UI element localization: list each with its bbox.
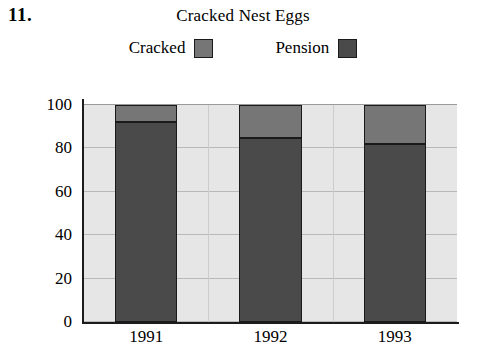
bar-group-1993[interactable] xyxy=(364,105,426,322)
gridline-vertical xyxy=(333,105,334,322)
legend-swatch-cracked-icon xyxy=(194,39,213,58)
legend-entry-pension: Pension xyxy=(275,38,357,58)
x-tick-label-1992: 1992 xyxy=(254,327,288,347)
legend-entry-cracked: Cracked xyxy=(129,38,214,58)
bar-segment-pension-1992[interactable] xyxy=(239,138,301,322)
bar-segment-cracked-1992[interactable] xyxy=(239,105,301,138)
chart-title: Cracked Nest Eggs xyxy=(0,6,486,26)
y-axis-ticks: 020406080100 xyxy=(0,105,78,322)
chart-legend: Cracked Pension xyxy=(0,38,486,58)
bar-group-1991[interactable] xyxy=(115,105,177,322)
y-tick-label-60: 60 xyxy=(55,182,72,202)
y-tick-label-0: 0 xyxy=(64,312,73,332)
legend-label-cracked: Cracked xyxy=(129,38,186,58)
y-tick-label-40: 40 xyxy=(55,225,72,245)
x-tick-label-1993: 1993 xyxy=(378,327,412,347)
x-axis-ticks: 199119921993 xyxy=(84,327,457,353)
plot-area xyxy=(84,105,457,322)
legend-label-pension: Pension xyxy=(275,38,329,58)
plot-area-wrapper xyxy=(84,105,457,322)
bar-segment-cracked-1993[interactable] xyxy=(364,105,426,144)
gridline-vertical xyxy=(208,105,209,322)
y-tick-label-100: 100 xyxy=(47,95,73,115)
y-tick-label-20: 20 xyxy=(55,269,72,289)
bar-group-1992[interactable] xyxy=(239,105,301,322)
legend-swatch-pension-icon xyxy=(338,39,357,58)
bar-segment-pension-1993[interactable] xyxy=(364,144,426,322)
bar-segment-cracked-1991[interactable] xyxy=(115,105,177,122)
y-tick-label-80: 80 xyxy=(55,138,72,158)
x-tick-label-1991: 1991 xyxy=(129,327,163,347)
bar-segment-pension-1991[interactable] xyxy=(115,122,177,322)
x-axis-line xyxy=(82,322,459,324)
